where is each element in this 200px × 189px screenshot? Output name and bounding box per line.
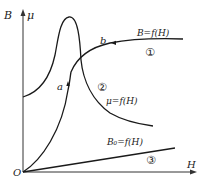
point-a-label: a (57, 81, 63, 92)
curve-1-label: B=f(H) (136, 28, 170, 38)
x-axis-arrow-icon (190, 170, 197, 175)
y-axis-arrow-icon (21, 9, 26, 16)
magnetization-diagram: B μ H O a b B=f(H) ① ② μ=f(H) B₀=f(H) ③ (0, 0, 200, 189)
point-b-label: b (100, 35, 106, 46)
y-axis-label-b: B (3, 9, 12, 22)
curve-3-marker: ③ (146, 154, 156, 167)
x-axis-label-h: H (186, 159, 196, 170)
origin-label: O (13, 167, 21, 178)
curve-mu-f-h (23, 17, 153, 126)
curve-2-marker: ② (97, 81, 107, 94)
y-axis-label-mu: μ (27, 9, 34, 22)
curve-3-label: B₀=f(H) (106, 137, 143, 147)
curve-b-f-h (23, 39, 183, 172)
point-b-arrow-icon (111, 41, 116, 45)
curve-2-label: μ=f(H) (106, 96, 138, 106)
curve-1-marker: ① (145, 46, 155, 59)
